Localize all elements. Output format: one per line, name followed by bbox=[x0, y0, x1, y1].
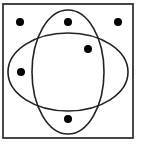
dot-middle-left bbox=[17, 68, 25, 76]
venn-diagram bbox=[0, 0, 149, 147]
dot-top-center bbox=[64, 18, 72, 26]
dot-upper-right-inner bbox=[84, 45, 92, 53]
dot-top-right bbox=[114, 18, 122, 26]
horizontal-ellipse bbox=[8, 33, 128, 111]
dot-bottom-center bbox=[64, 115, 72, 123]
dot-top-left bbox=[16, 18, 24, 26]
